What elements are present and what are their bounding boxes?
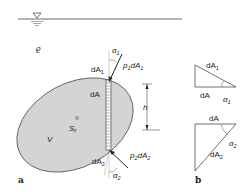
lower-top-label: dA bbox=[209, 114, 219, 123]
hydrostatic-buoyancy-diagram: ϱ α1 dA1 p1dA1 dA bbox=[0, 0, 250, 196]
svg-text:dA1: dA1 bbox=[91, 65, 104, 75]
upper-base-label: dA bbox=[200, 91, 210, 100]
svg-text:p2dA2: p2dA2 bbox=[129, 151, 150, 161]
panel-b-label: b bbox=[195, 175, 201, 185]
submerged-body bbox=[1, 59, 150, 191]
vertical-prism bbox=[106, 80, 111, 150]
svg-text:α1: α1 bbox=[223, 95, 231, 105]
svg-text:α1: α1 bbox=[112, 46, 120, 56]
svg-text:dA2: dA2 bbox=[92, 157, 105, 167]
volume-label: V bbox=[47, 135, 53, 144]
svg-text:dA1: dA1 bbox=[206, 61, 219, 71]
svg-text:p1dA1: p1dA1 bbox=[122, 61, 143, 71]
svg-text:α2: α2 bbox=[113, 171, 121, 181]
panel-a-label: a bbox=[18, 175, 24, 185]
svg-text:α2: α2 bbox=[229, 139, 237, 149]
mid-area-label: dA bbox=[90, 90, 100, 99]
fluid-density-label: ϱ bbox=[36, 44, 41, 53]
svg-text:dA2: dA2 bbox=[210, 150, 223, 160]
height-label: h bbox=[143, 103, 148, 112]
